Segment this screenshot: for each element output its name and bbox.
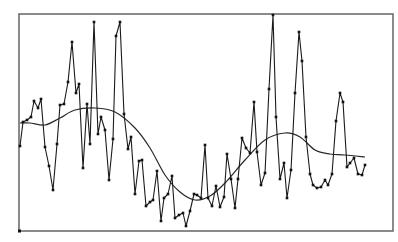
data-point-marker xyxy=(130,136,133,139)
data-point-marker xyxy=(71,41,74,44)
data-point-marker xyxy=(361,174,364,177)
data-point-marker xyxy=(141,159,144,162)
data-point-marker xyxy=(272,14,275,17)
data-point-marker xyxy=(100,116,103,119)
data-point-marker xyxy=(219,206,222,209)
data-point-marker xyxy=(108,179,111,182)
data-point-marker xyxy=(264,172,267,175)
data-point-marker xyxy=(26,119,29,122)
data-point-marker xyxy=(93,21,96,24)
data-point-marker xyxy=(260,184,263,187)
line-chart xyxy=(0,0,398,242)
data-point-marker xyxy=(279,178,282,181)
data-point-marker xyxy=(171,175,174,178)
data-point-marker xyxy=(339,92,342,95)
data-point-marker xyxy=(349,162,352,165)
data-point-marker xyxy=(97,133,100,136)
data-point-marker xyxy=(160,220,163,223)
data-point-marker xyxy=(67,81,70,84)
data-point-marker xyxy=(127,148,130,151)
data-point-marker xyxy=(211,205,214,208)
data-point-markers xyxy=(19,14,367,228)
data-point-marker xyxy=(52,189,55,192)
data-point-marker xyxy=(309,173,312,176)
data-point-marker xyxy=(215,185,218,188)
data-point-marker xyxy=(86,103,89,106)
data-point-marker xyxy=(290,169,293,172)
data-point-marker xyxy=(104,129,107,132)
data-point-marker xyxy=(237,178,240,181)
smoothed-trend-line xyxy=(20,108,365,200)
data-point-marker xyxy=(316,187,319,190)
data-point-marker xyxy=(178,214,181,217)
data-point-marker xyxy=(22,121,25,124)
data-point-marker xyxy=(241,137,244,140)
data-point-marker xyxy=(207,197,210,200)
data-point-marker xyxy=(223,196,226,199)
data-point-marker xyxy=(75,92,78,95)
data-point-marker xyxy=(115,35,118,38)
data-point-marker xyxy=(40,98,43,101)
data-point-marker xyxy=(331,173,334,176)
data-point-marker xyxy=(245,147,248,150)
data-point-marker xyxy=(119,21,122,24)
origin-marker xyxy=(18,230,21,233)
data-point-marker xyxy=(353,157,356,160)
data-point-marker xyxy=(185,225,188,228)
data-point-marker xyxy=(230,178,233,181)
data-point-marker xyxy=(145,205,148,208)
data-point-marker xyxy=(30,116,33,119)
data-point-marker xyxy=(226,153,229,156)
data-point-marker xyxy=(196,194,199,197)
data-point-marker xyxy=(294,92,297,95)
data-point-marker xyxy=(123,113,126,116)
data-point-marker xyxy=(56,143,59,146)
data-point-marker xyxy=(335,120,338,123)
data-point-marker xyxy=(256,151,259,154)
data-point-marker xyxy=(204,144,207,147)
data-point-marker xyxy=(301,60,304,63)
data-point-marker xyxy=(149,201,152,204)
data-point-marker xyxy=(44,146,47,149)
data-point-marker xyxy=(48,165,51,168)
data-point-marker xyxy=(89,143,92,146)
data-point-marker xyxy=(253,101,256,104)
data-point-marker xyxy=(63,103,66,106)
data-point-marker xyxy=(138,160,141,163)
data-point-marker xyxy=(342,101,345,104)
data-point-marker xyxy=(283,162,286,165)
data-point-marker xyxy=(234,207,237,210)
data-point-marker xyxy=(200,197,203,200)
data-point-marker xyxy=(286,197,289,200)
data-point-marker xyxy=(174,217,177,220)
data-point-marker xyxy=(275,116,278,119)
data-point-marker xyxy=(320,186,323,189)
observed-series-line xyxy=(20,15,365,226)
data-point-marker xyxy=(59,104,62,107)
data-point-marker xyxy=(78,83,81,86)
data-point-marker xyxy=(189,210,192,213)
data-point-marker xyxy=(82,167,85,170)
data-point-marker xyxy=(346,166,349,169)
data-point-marker xyxy=(357,173,360,176)
data-point-marker xyxy=(182,212,185,215)
data-point-marker xyxy=(298,31,301,34)
data-point-marker xyxy=(364,164,367,167)
data-point-marker xyxy=(112,138,115,141)
data-point-marker xyxy=(312,184,315,187)
data-point-marker xyxy=(156,170,159,173)
data-point-marker xyxy=(249,152,252,155)
data-point-marker xyxy=(134,193,137,196)
data-point-marker xyxy=(37,107,40,110)
data-point-marker xyxy=(193,193,196,196)
data-point-marker xyxy=(324,179,327,182)
data-point-marker xyxy=(327,184,330,187)
data-point-marker xyxy=(152,199,155,202)
data-point-marker xyxy=(268,88,271,91)
data-point-marker xyxy=(33,100,36,103)
data-point-marker xyxy=(163,197,166,200)
data-point-marker xyxy=(19,145,22,148)
data-point-marker xyxy=(167,193,170,196)
data-point-marker xyxy=(305,136,308,139)
